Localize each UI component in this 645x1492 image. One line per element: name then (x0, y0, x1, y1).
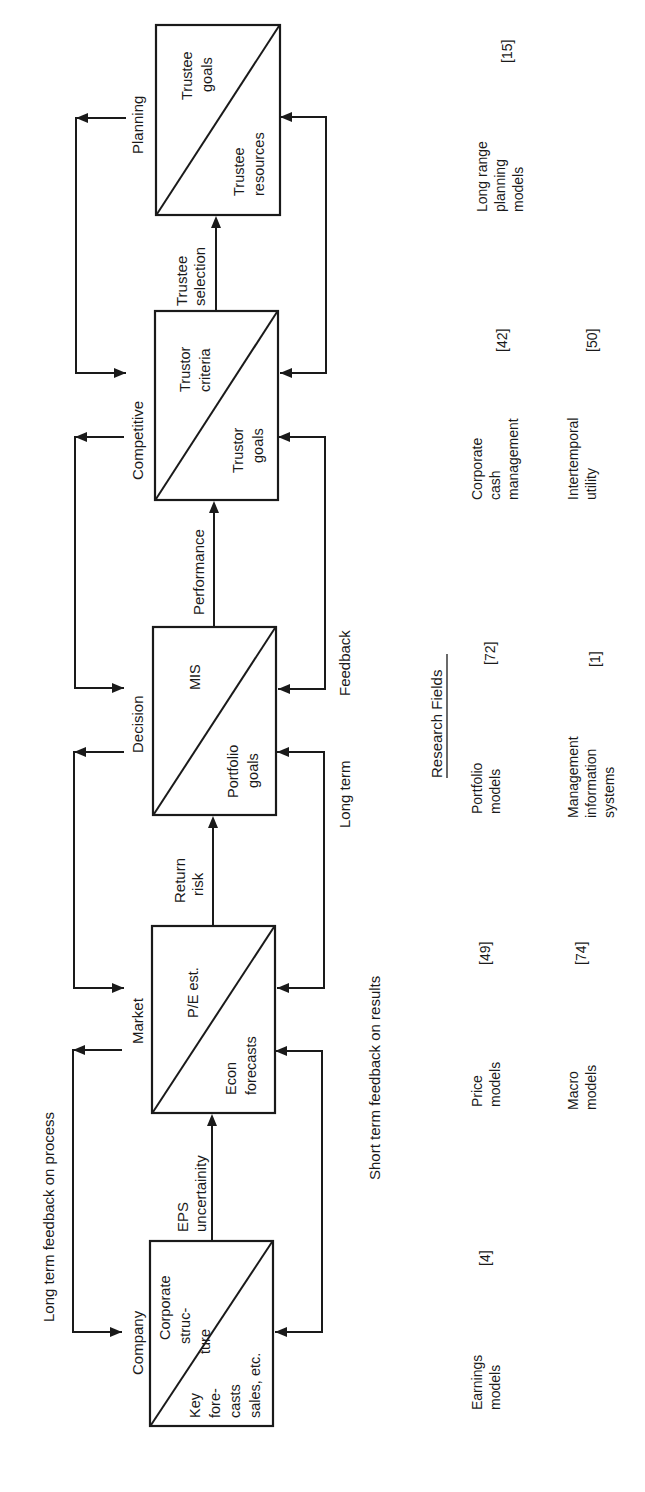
stage-label-market: Market (129, 997, 146, 1044)
flow-label-risk: risk (189, 872, 206, 896)
rf-portfolio: Portfolio models (469, 759, 503, 814)
rf-corporate-cash-ref: [42] (494, 329, 510, 352)
long-term-label: Long term (336, 760, 353, 828)
stage-planning: Planning Trustee goals Trustee resources (129, 25, 280, 215)
right-feedback-loops (275, 112, 326, 1337)
feedback-label: Feedback (336, 630, 353, 696)
rf-price: Price models (469, 1062, 503, 1107)
flow-label-performance: Performance (190, 529, 207, 615)
rf-long-range: Long range planning models (474, 137, 526, 212)
flow-label-trustee: Trustee (173, 256, 190, 306)
rf-portfolio-ref: [72] (482, 642, 498, 665)
research-fields-title: Research Fields (428, 670, 445, 778)
long-term-feedback-label: Long term feedback on process (40, 1112, 57, 1322)
stage-company: Company Corporate struc- ture Key fore- … (129, 1241, 273, 1426)
rf-intertemporal-ref: [50] (584, 329, 600, 352)
flow-label-eps: EPS (174, 1202, 191, 1232)
rf-corporate-cash: Corporate cash management (469, 418, 521, 500)
market-upper: P/E est. (185, 967, 201, 1018)
stage-label-planning: Planning (129, 96, 146, 154)
rf-mis: Management information systems (565, 732, 617, 818)
flow-label-selection: selection (191, 247, 208, 306)
rf-intertemporal: Intertemporal utility (565, 414, 599, 500)
decision-upper: MIS (187, 664, 203, 690)
rf-earnings: Earnings models (469, 1351, 503, 1410)
rf-mis-ref: [1] (587, 651, 603, 667)
stage-label-company: Company (129, 1310, 146, 1375)
rf-price-ref: [49] (477, 942, 493, 965)
stage-label-competitive: Competitive (129, 401, 146, 480)
short-term-feedback-label: Short term feedback on results (366, 976, 383, 1180)
stage-competitive: Competitive Trustor criteria Trustor goa… (129, 311, 278, 500)
stage-label-decision: Decision (129, 695, 146, 753)
rf-macro: Macro models (565, 1065, 599, 1110)
rf-macro-ref: [74] (573, 942, 589, 965)
rf-long-range-ref: [15] (499, 40, 515, 63)
research-fields: Research Fields Earnings models [4] Pric… (428, 40, 617, 1410)
flow-label-eps-2: uncertainity (192, 1155, 209, 1232)
stage-market: Market P/E est. Econ forecasts (129, 926, 275, 1113)
left-feedback-loops (73, 113, 126, 1337)
feedback-process-diagram: Long term feedback on process (0, 0, 645, 1492)
flow-label-return: Return (171, 858, 188, 903)
rf-earnings-ref: [4] (477, 1250, 493, 1266)
stage-decision: Decision MIS Portfolio goals (129, 627, 276, 815)
